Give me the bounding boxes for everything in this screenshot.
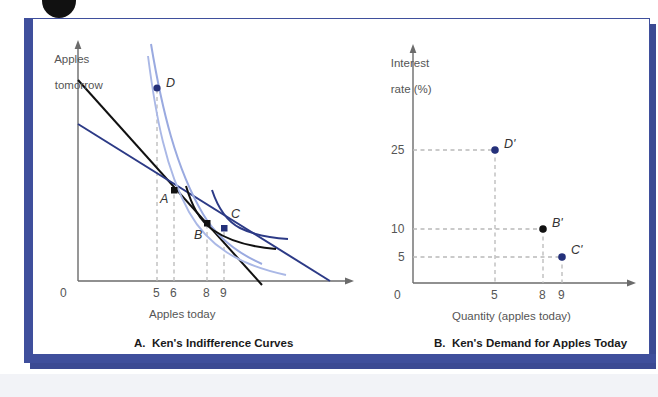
panel-b-xtick-9: 9 xyxy=(558,288,565,302)
panel-b-xtick-8: 8 xyxy=(539,288,546,302)
point-c-prime-marker xyxy=(558,253,566,261)
point-d-prime-marker xyxy=(491,146,499,154)
panel-a-y-axis-label: Apples tomorrow xyxy=(42,40,103,105)
panel-b-ytick-5: 5 xyxy=(398,250,405,264)
panel-a-xtick-9: 9 xyxy=(220,286,227,300)
budget-line-high-interest xyxy=(78,80,262,285)
panel-a-xtick-5: 5 xyxy=(153,286,160,300)
panel-a-y-axis-label-line1: Apples xyxy=(54,53,89,65)
panel-a-xtick-8: 8 xyxy=(203,286,210,300)
panel-a-caption: A. Ken's Indifference Curves xyxy=(134,337,293,349)
point-d-label: D xyxy=(166,76,175,90)
panel-b-xtick-5: 5 xyxy=(491,288,498,302)
point-b-prime-marker xyxy=(539,225,547,233)
indifference-curve-c xyxy=(212,190,288,239)
panel-a-x-axis-label: Apples today xyxy=(149,308,216,320)
panel-a-origin-label: 0 xyxy=(60,286,67,300)
panel-b-ytick-10: 10 xyxy=(391,222,404,236)
panel-b-y-axis-label-line1: Interest xyxy=(391,57,429,69)
panel-a-axes xyxy=(75,40,354,284)
panel-a-dashed-guides xyxy=(157,88,224,281)
point-d-prime-label: D' xyxy=(504,137,515,151)
panel-b-axes xyxy=(410,44,636,286)
point-a-label: A xyxy=(160,192,168,206)
point-c-marker xyxy=(221,225,228,232)
panel-a-xtick-6: 6 xyxy=(170,286,177,300)
panel-b-dashed-guides xyxy=(413,150,562,283)
point-d-marker xyxy=(153,84,160,91)
panel-b-origin-label: 0 xyxy=(394,288,401,302)
figure-root: Apples tomorrow 0 5 6 8 9 Apples today A… xyxy=(0,0,658,397)
panel-b-ytick-25: 25 xyxy=(391,143,404,157)
point-b-prime-label: B' xyxy=(552,216,563,230)
budget-line-low-interest xyxy=(78,124,330,281)
panel-b-y-axis-label-line2: rate (%) xyxy=(391,83,432,95)
panel-b-caption: B. Ken's Demand for Apples Today xyxy=(434,337,627,349)
panel-b-y-axis-label: Interest rate (%) xyxy=(378,44,432,109)
point-c-prime-label: C' xyxy=(571,243,582,257)
point-c-label: C xyxy=(231,207,240,221)
panel-a-y-axis-label-line2: tomorrow xyxy=(55,79,103,91)
point-b-marker xyxy=(204,220,211,227)
point-a-marker xyxy=(171,187,178,194)
panel-b-x-axis-label: Quantity (apples today) xyxy=(452,310,571,322)
point-b-label: B xyxy=(194,228,202,242)
